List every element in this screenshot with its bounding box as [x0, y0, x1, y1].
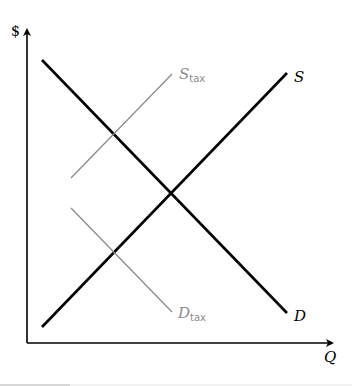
demand-tax-curve	[71, 208, 172, 312]
demand-tax-label: Dtax	[177, 304, 206, 323]
x-axis-label: Q	[324, 348, 336, 366]
supply-curve	[42, 73, 287, 327]
demand-label: D	[293, 307, 306, 325]
supply-demand-diagram: $ Q S D Stax Dtax	[0, 0, 352, 386]
supply-label: S	[294, 68, 304, 86]
supply-tax-curve	[71, 74, 172, 178]
demand-curve	[42, 60, 287, 313]
y-axis-label: $	[11, 23, 20, 39]
supply-tax-label: Stax	[179, 65, 205, 84]
